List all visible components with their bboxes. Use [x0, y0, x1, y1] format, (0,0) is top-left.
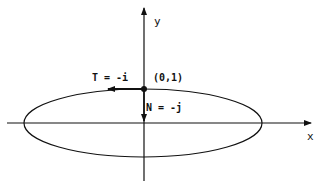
point-marker — [141, 86, 147, 92]
x-axis-label: x — [307, 130, 314, 143]
normal-label: N = -j — [146, 102, 182, 113]
tangent-label: T = -i — [92, 72, 128, 83]
y-axis-label: y — [154, 15, 161, 28]
point-label: (0,1) — [153, 72, 183, 83]
ellipse-diagram: y x T = -i (0,1) N = -j — [0, 0, 322, 183]
